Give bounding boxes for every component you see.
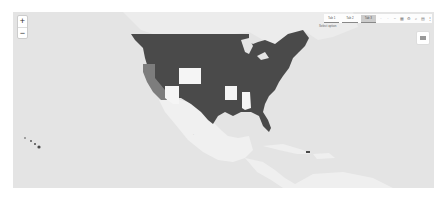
gear-icon[interactable]: ⚙	[407, 17, 411, 21]
puerto-rico	[306, 151, 310, 153]
dropdown-selector[interactable]: Select option	[319, 24, 336, 28]
zoom-control: + −	[17, 15, 28, 39]
state-alabama	[242, 92, 251, 110]
map-canvas[interactable]: · + − Tab 1 Tab 2 Tab 3 · · − ▦ ⚙ ⌕ ▤ ⋮ …	[13, 12, 434, 188]
segment-1[interactable]: Tab 1	[324, 15, 339, 23]
segment-2[interactable]: Tab 2	[342, 15, 357, 23]
map-label: ·	[193, 133, 194, 137]
map-svg: ·	[13, 12, 434, 188]
south-america-land	[288, 172, 393, 188]
layers-button[interactable]	[416, 31, 430, 45]
toolbar: Tab 1 Tab 2 Tab 3 · · − ▦ ⚙ ⌕ ▤ ⋮	[324, 14, 432, 23]
download-icon[interactable]: ▤	[421, 17, 425, 21]
cuba-land	[263, 144, 311, 154]
pan-icon[interactable]: ·	[379, 17, 383, 21]
more-icon[interactable]: ⋮	[428, 17, 432, 21]
zoom-in-button[interactable]: +	[18, 16, 27, 27]
state-arkansas	[225, 86, 237, 100]
segment-3[interactable]: Tab 3	[361, 15, 376, 23]
minus-icon[interactable]: −	[393, 17, 397, 21]
zoom-out-button[interactable]: −	[18, 27, 27, 39]
state-colorado	[179, 68, 201, 84]
usa-states-dark	[131, 30, 309, 132]
central-america-land	[245, 158, 303, 188]
hispaniola-land	[313, 153, 335, 159]
grid-icon[interactable]: ▦	[400, 17, 404, 21]
search-icon[interactable]: ⌕	[414, 17, 418, 21]
zoom-icon[interactable]: ·	[386, 17, 390, 21]
hawaii-islands	[24, 137, 40, 148]
layers-icon	[420, 36, 426, 40]
